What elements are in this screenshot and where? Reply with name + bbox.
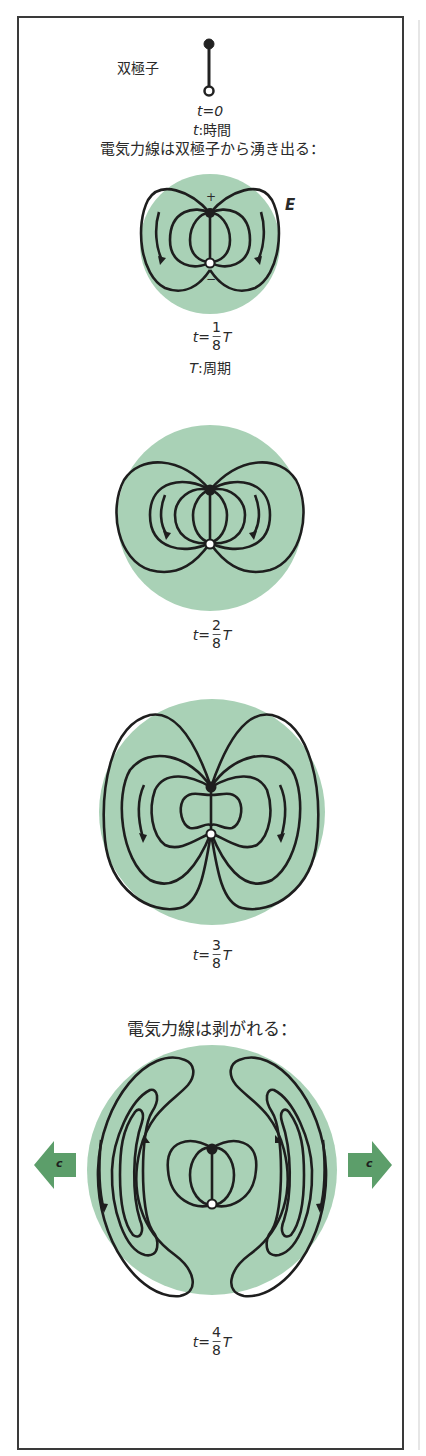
time-word: 時間 xyxy=(203,122,231,138)
period-word: 周期 xyxy=(203,360,231,376)
stage-2-time: t= 28 T xyxy=(193,618,232,651)
speed-label-right: c xyxy=(366,1157,373,1170)
time-definition: t:時間 xyxy=(193,119,231,139)
stage-3-time: t= 38 T xyxy=(193,938,232,971)
heading-emerge: 電気力線は双極子から湧き出る： xyxy=(100,137,325,158)
period-definition: T:周期 xyxy=(189,357,230,377)
stage-1-num: 1 xyxy=(212,320,221,335)
dipole-field-diagram xyxy=(0,0,426,1456)
plus-sign: + xyxy=(206,190,216,204)
stage-4-suffix: T xyxy=(223,1334,232,1350)
propagation-arrow-left-shape xyxy=(34,1141,76,1189)
stage-2-prefix: t= xyxy=(193,627,210,643)
stage-1-time: t= 18 T xyxy=(193,320,232,353)
stage-2-num: 2 xyxy=(212,618,221,633)
stage-1-den: 8 xyxy=(212,338,221,353)
stage-4-num: 4 xyxy=(212,1325,221,1340)
speed-label-left: c xyxy=(56,1157,63,1170)
time-zero-label: t=0 xyxy=(197,103,223,119)
field-stage-4 xyxy=(87,1045,337,1296)
stage-4-prefix: t= xyxy=(193,1334,210,1350)
stage-2-suffix: T xyxy=(223,627,232,643)
stage-1-prefix: t= xyxy=(193,329,210,345)
minus-sign: − xyxy=(206,272,216,286)
stage-4-time: t= 48 T xyxy=(193,1325,232,1358)
stage-4-den: 8 xyxy=(212,1343,221,1358)
stage-3-num: 3 xyxy=(212,938,221,953)
dipole-label: 双極子 xyxy=(117,57,159,77)
field-label-E: E xyxy=(285,196,295,214)
field-stage-2 xyxy=(116,425,303,611)
heading-detach: 電気力線は剥がれる： xyxy=(127,1015,297,1040)
stage-3-prefix: t= xyxy=(193,947,210,963)
period-var: T xyxy=(189,360,198,376)
field-stage-3 xyxy=(99,699,325,925)
dipole-icon xyxy=(204,39,214,96)
stage-3-suffix: T xyxy=(223,947,232,963)
stage-1-suffix: T xyxy=(223,329,232,345)
stage-2-den: 8 xyxy=(212,636,221,651)
stage-3-den: 8 xyxy=(212,956,221,971)
